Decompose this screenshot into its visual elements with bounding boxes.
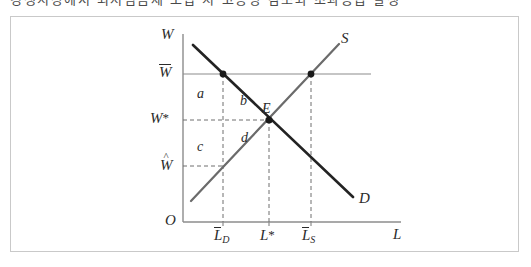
point-equilibrium: [265, 116, 272, 123]
x-tick-label-ld-bar: LD: [214, 228, 230, 245]
y-tick-label-w-hat: ^W: [160, 158, 173, 173]
overline-bar: [302, 227, 309, 228]
x-tick-label-ls-bar: LS: [302, 228, 315, 245]
x-tick-label-l-star: L*: [260, 228, 275, 243]
ld-subscript: D: [222, 234, 229, 245]
supply-curve-label: S: [341, 31, 349, 46]
w-bar-glyph: W: [159, 65, 172, 80]
overline-bar: [159, 64, 171, 65]
ls-subscript: S: [310, 234, 315, 245]
plot-canvas: [11, 17, 520, 253]
star-glyph: *: [268, 227, 275, 242]
region-label-d: d: [241, 131, 248, 145]
w-hat-glyph: ^W: [160, 158, 173, 173]
supply-curve: [191, 44, 339, 201]
x-axis-label: L: [393, 227, 401, 242]
y-tick-label-w-bar: W: [159, 65, 172, 80]
overline-bar: [214, 227, 221, 228]
point-supply-at-wbar: [308, 71, 315, 78]
equilibrium-point-label: E: [262, 102, 271, 116]
ld-bar-glyph: L: [214, 228, 222, 243]
clipped-heading-text: 경쟁시장에서 최저임금제 도입 시 고용량 감소와 초과공급 발생: [10, 0, 400, 8]
hat-caret: ^: [164, 151, 169, 162]
figure-frame: W W W* ^W O LD L* LS L S D E a b c d: [10, 16, 519, 252]
y-tick-label-w-star: W*: [150, 111, 169, 126]
point-demand-at-wbar: [220, 71, 227, 78]
star-glyph: *: [163, 110, 170, 125]
region-label-c: c: [197, 140, 203, 154]
region-label-b: b: [240, 94, 247, 108]
ls-bar-glyph: L: [302, 228, 310, 243]
clipped-heading-strip: 경쟁시장에서 최저임금제 도입 시 고용량 감소와 초과공급 발생: [0, 0, 531, 13]
y-axis-label: W: [161, 27, 174, 42]
labor-market-plot: W W W* ^W O LD L* LS L S D E a b c d: [11, 17, 520, 253]
region-label-a: a: [197, 87, 204, 101]
demand-curve-label: D: [359, 191, 370, 206]
origin-label: O: [165, 213, 176, 228]
